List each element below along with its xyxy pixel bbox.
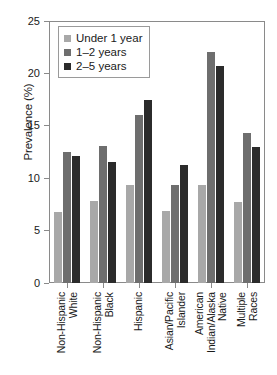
legend-swatch-icon xyxy=(64,63,71,70)
bar xyxy=(243,133,251,283)
legend-label: Under 1 year xyxy=(76,32,142,45)
bar xyxy=(108,162,116,283)
x-axis-label: Non-Hispanic Black xyxy=(92,292,115,353)
bar xyxy=(144,100,152,283)
bar xyxy=(171,185,179,284)
x-tick-mark xyxy=(211,283,212,288)
bar-chart: Prevalence (%) 0510152025 Non-Hispanic W… xyxy=(0,0,277,375)
bar xyxy=(126,185,134,284)
bar xyxy=(72,156,80,283)
x-tick-mark xyxy=(139,283,140,288)
legend-label: 1–2 years xyxy=(76,46,127,59)
bar xyxy=(234,202,242,283)
bar xyxy=(135,115,143,283)
y-tick-label: 25 xyxy=(28,14,40,28)
bar xyxy=(180,165,188,283)
bar xyxy=(198,185,206,284)
legend-label: 2–5 years xyxy=(76,60,127,73)
x-axis-label: Non-Hispanic White xyxy=(56,292,79,353)
x-tick-mark xyxy=(67,283,68,288)
y-tick-label: 0 xyxy=(34,276,40,290)
y-tick-label: 10 xyxy=(28,171,40,185)
bar xyxy=(216,66,224,283)
bar xyxy=(207,52,215,283)
bar xyxy=(252,147,260,283)
legend-item: 1–2 years xyxy=(64,45,142,59)
x-axis-label: Multiple Races xyxy=(236,292,259,327)
x-axis-label: Hispanic xyxy=(133,292,145,331)
x-tick-mark xyxy=(103,283,104,288)
bar xyxy=(90,201,98,283)
bar xyxy=(162,211,170,283)
x-axis-label: Asian/Pacific Islander xyxy=(164,292,187,350)
legend-swatch-icon xyxy=(64,35,71,42)
legend: Under 1 year1–2 years2–5 years xyxy=(58,26,150,78)
x-tick-mark xyxy=(175,283,176,288)
y-tick-label: 20 xyxy=(28,66,40,80)
bar xyxy=(63,152,71,283)
y-tick-label: 15 xyxy=(28,118,40,132)
legend-item: 2–5 years xyxy=(64,59,142,73)
x-tick-mark xyxy=(247,283,248,288)
bar xyxy=(54,212,62,283)
y-tick-label: 5 xyxy=(34,223,40,237)
bar xyxy=(99,146,107,283)
x-axis-label: American Indian/Alaska Native xyxy=(194,292,229,353)
legend-swatch-icon xyxy=(64,49,71,56)
legend-item: Under 1 year xyxy=(64,31,142,45)
